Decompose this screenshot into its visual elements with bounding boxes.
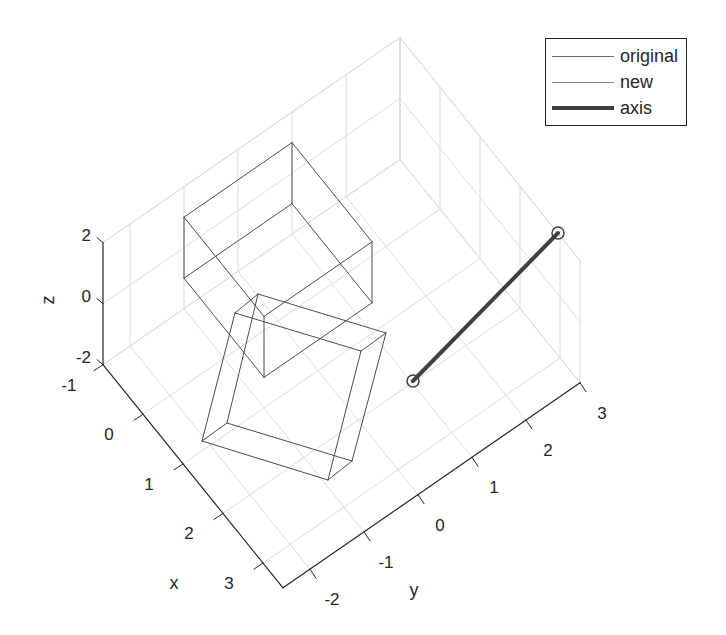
grid-line (400, 160, 580, 383)
legend-swatch-original (552, 56, 614, 57)
y-tick-label: 1 (489, 478, 498, 497)
legend-swatch-new (552, 82, 614, 83)
legend-label-original: original (620, 47, 678, 65)
grid-line (143, 209, 440, 414)
z-tick (97, 360, 103, 365)
x-tick-label: -1 (61, 376, 76, 395)
x-tick-label: 3 (224, 574, 233, 593)
cube-edge (328, 351, 361, 480)
y-tick-label: 3 (597, 404, 606, 423)
x-tick-label: 0 (104, 425, 113, 444)
grid-line (103, 99, 400, 304)
x-tick (94, 365, 103, 371)
grid-line (103, 160, 400, 365)
grid-line (263, 358, 560, 563)
y-axis-label: y (410, 580, 419, 600)
grid-line (346, 197, 526, 420)
cube-edge (328, 461, 352, 480)
cube-edge (264, 303, 372, 378)
cube-edge (292, 143, 372, 242)
cube-edge (264, 242, 372, 317)
x-tick (254, 563, 263, 569)
y-tick (526, 420, 532, 429)
series-axis (407, 227, 564, 387)
cube-edge (184, 278, 264, 377)
tick-labels: -10123-2-10123-202 (61, 226, 606, 610)
grid-line (238, 271, 418, 494)
y-axis-line (283, 383, 580, 588)
z-axis-label: z (38, 296, 58, 305)
grid-line (183, 259, 480, 464)
legend: original new axis (545, 38, 687, 126)
y-tick (364, 532, 370, 541)
y-tick (418, 495, 424, 504)
axis-lines (94, 238, 586, 588)
z-tick (97, 238, 103, 243)
cube-edge (202, 313, 235, 441)
y-tick (472, 457, 478, 466)
cube-edge (227, 423, 352, 461)
y-tick (580, 383, 586, 392)
grid-line (130, 346, 310, 569)
legend-label-axis: axis (620, 99, 652, 117)
data-series (184, 143, 564, 480)
y-tick-label: -2 (324, 590, 339, 609)
cube-edge (352, 333, 386, 461)
y-tick (310, 569, 316, 578)
x-tick-label: 2 (184, 524, 193, 543)
grid-line (223, 308, 520, 513)
x-tick (214, 513, 223, 519)
cube-edge (258, 294, 386, 333)
x-tick (134, 414, 143, 420)
cube-edge (202, 441, 328, 480)
z-tick-label: -2 (76, 348, 91, 367)
series-original (184, 143, 372, 378)
x-axis-label: x (170, 573, 179, 593)
legend-item-new: new (552, 71, 653, 93)
legend-item-axis: axis (552, 97, 652, 119)
z-tick-label: 0 (82, 287, 91, 306)
z-tick (97, 299, 103, 304)
grid-line (103, 38, 400, 243)
cube-edge (292, 204, 372, 303)
grid-line (400, 99, 580, 322)
y-tick-label: -1 (378, 553, 393, 572)
cube-edge (184, 217, 264, 316)
x-tick (174, 464, 183, 470)
y-tick-label: 0 (435, 516, 444, 535)
legend-swatch-axis (552, 106, 614, 110)
z-tick-label: 2 (82, 226, 91, 245)
cube-edge (227, 294, 258, 423)
legend-item-original: original (552, 45, 678, 67)
x-tick-label: 1 (144, 475, 153, 494)
legend-label-new: new (620, 73, 653, 91)
y-tick-label: 2 (543, 441, 552, 460)
grid-lines (103, 38, 580, 570)
